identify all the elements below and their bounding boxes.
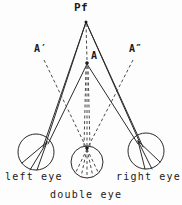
- right-eye-chords: [138, 141, 160, 169]
- label-double-eye: double eye: [50, 190, 122, 200]
- right-eye-chord-3: [138, 141, 160, 162]
- dashed-line-group: [44, 24, 133, 178]
- wedge-left-a-to-double-eye: [84, 66, 86, 147]
- axis-pf-to-a: [86, 24, 87, 60]
- label-a-prime: A′: [34, 44, 47, 54]
- right-eye-chord-2: [138, 141, 145, 169]
- ray-aprime-to-double-eye: [44, 60, 86, 147]
- double-eye-fan-1: [75, 149, 87, 174]
- double-eye-fan-3: [87, 149, 93, 177]
- wedge-right-a-to-double-eye: [88, 66, 90, 147]
- double-eye-vertex-dot: [85, 146, 89, 150]
- ray-pf-right-secondary: [86, 22, 143, 147]
- a-vertex-dot: [85, 61, 89, 65]
- ray-a-to-right-eye: [87, 64, 138, 144]
- right-eye-circle: [128, 133, 164, 169]
- solid-ray-group: [43, 22, 143, 147]
- double-eye-fan-2: [81, 149, 87, 177]
- pf-vertex-dot: [85, 21, 88, 24]
- ray-pf-left-secondary: [43, 22, 86, 147]
- left-eye-circle: [18, 134, 54, 170]
- eye-convergence-diagram: Pf A A′ A″ left eye right eye double eye: [0, 0, 182, 205]
- label-a: A: [91, 51, 98, 61]
- label-pf: Pf: [74, 2, 88, 13]
- ray-adprime-to-double-eye: [88, 60, 133, 147]
- right-eye-chord-1: [138, 141, 152, 169]
- label-right-eye: right eye: [116, 172, 181, 182]
- label-a-double-prime: A″: [129, 44, 142, 54]
- label-left-eye: left eye: [5, 172, 63, 182]
- double-eye-fan-4: [87, 149, 99, 174]
